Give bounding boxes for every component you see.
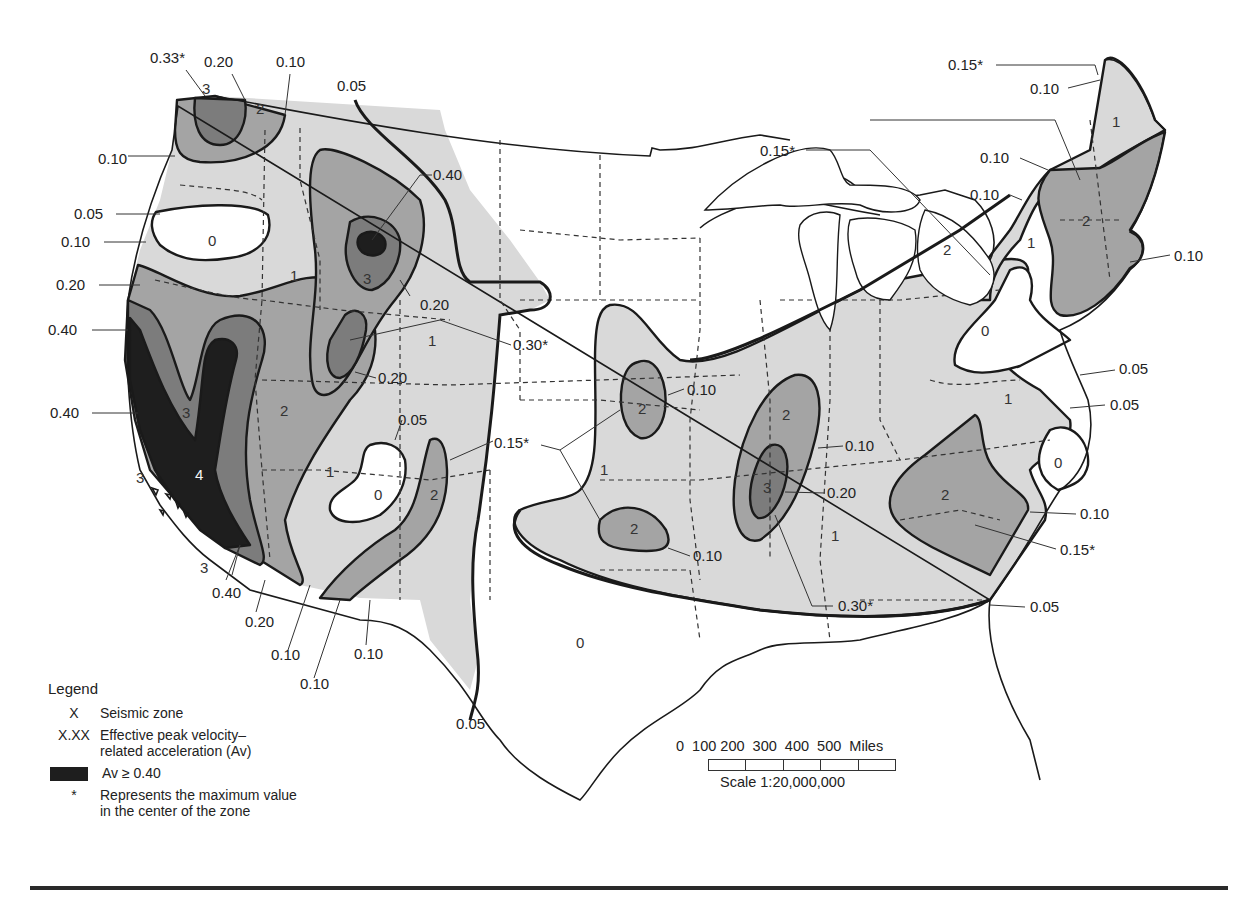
contour-label: 0.10 bbox=[687, 381, 716, 398]
dark-swatch-icon bbox=[50, 767, 88, 781]
contour-label: 0.10 bbox=[276, 53, 305, 70]
contour-label: 0.15* bbox=[1060, 541, 1095, 558]
contour-label: 0.15* bbox=[948, 56, 983, 73]
contour-label: 0.30* bbox=[838, 597, 873, 614]
zone-label: 1 bbox=[290, 267, 298, 284]
scale-ratio: Scale 1:20,000,000 bbox=[720, 774, 946, 790]
legend-label-line2: in the center of the zone bbox=[100, 803, 297, 819]
zone-label: 3 bbox=[363, 270, 371, 287]
legend-title: Legend bbox=[48, 680, 297, 697]
contour-label: 0.15* bbox=[494, 434, 529, 451]
zone-label: 3 bbox=[200, 559, 208, 576]
zone-label: 1 bbox=[1004, 390, 1012, 407]
legend-label: Effective peak velocity– related acceler… bbox=[100, 727, 251, 759]
zone0-virginia bbox=[1039, 427, 1088, 490]
contour-label: 0.20 bbox=[827, 484, 856, 501]
map-legend: Legend X Seismic zone X.XX Effective pea… bbox=[48, 680, 297, 825]
contour-label: 0.05 bbox=[1030, 598, 1059, 615]
zone-label: 2 bbox=[256, 100, 264, 117]
zone-label: 0 bbox=[208, 232, 216, 249]
zone-label: 1 bbox=[326, 463, 334, 480]
zone-label: 1 bbox=[831, 527, 839, 544]
zone-label: 1 bbox=[428, 332, 436, 349]
contour-label: 0.05 bbox=[74, 205, 103, 222]
contour-label: 0.20 bbox=[420, 296, 449, 313]
contour-label: 0.10 bbox=[271, 646, 300, 663]
contour-label: 0.05 bbox=[398, 411, 427, 428]
legend-label: Seismic zone bbox=[100, 705, 183, 721]
zone-label: 2 bbox=[941, 486, 949, 503]
scale-ticks: 0 100 200 300 400 500 Miles bbox=[676, 738, 946, 754]
contour-label: 0.10 bbox=[693, 547, 722, 564]
zone-label: 2 bbox=[638, 400, 646, 417]
legend-label: Represents the maximum value in the cent… bbox=[100, 787, 297, 819]
zone-label: 2 bbox=[782, 406, 790, 423]
zone-label: 2 bbox=[1082, 212, 1090, 229]
zone-label: 1 bbox=[600, 461, 608, 478]
zone4-yellowstone bbox=[358, 232, 386, 256]
legend-label: Av ≥ 0.40 bbox=[102, 765, 161, 781]
legend-item-asterisk: * Represents the maximum value in the ce… bbox=[48, 787, 297, 819]
contour-label: 0.05 bbox=[1110, 396, 1139, 413]
zone-label: 2 bbox=[430, 486, 438, 503]
contour-label: 0.10 bbox=[354, 645, 383, 662]
zone-label: 4 bbox=[195, 466, 203, 483]
contour-label: 0.40 bbox=[50, 404, 79, 421]
contour-label: 0.10 bbox=[300, 675, 329, 692]
contour-label: 0.40 bbox=[212, 584, 241, 601]
contour-label: 0.30* bbox=[513, 336, 548, 353]
legend-label-line2: related acceleration (Av) bbox=[100, 743, 251, 759]
contour-label: 0.05 bbox=[456, 715, 485, 732]
zone-label: 2 bbox=[943, 241, 951, 258]
legend-label-line1: Effective peak velocity– bbox=[100, 727, 251, 743]
contour-label: 0.10 bbox=[1080, 505, 1109, 522]
contour-label: 0.40 bbox=[48, 321, 77, 338]
asterisk-icon: * bbox=[48, 787, 100, 803]
zone-label: 3 bbox=[182, 404, 190, 421]
zone-label: 3 bbox=[202, 80, 210, 97]
scale-bar: 0 100 200 300 400 500 Miles Scale 1:20,0… bbox=[676, 738, 946, 790]
contour-label: 0.10 bbox=[970, 186, 999, 203]
contour-label: 0.10 bbox=[845, 437, 874, 454]
zone-label: 0 bbox=[576, 634, 584, 651]
zone-label: 1 bbox=[1112, 113, 1120, 130]
contour-label: 0.15* bbox=[760, 142, 795, 159]
legend-item-av-high: Av ≥ 0.40 bbox=[48, 765, 297, 781]
contour-label: 0.20 bbox=[56, 276, 85, 293]
contour-label: 0.05 bbox=[337, 77, 366, 94]
contour-label: 0.33* bbox=[150, 49, 185, 66]
bottom-rule-divider bbox=[30, 886, 1228, 890]
scale-bar-graphic bbox=[708, 759, 896, 771]
zone-label: 3 bbox=[763, 479, 771, 496]
contour-label: 0.20 bbox=[204, 53, 233, 70]
zone-label: 3 bbox=[136, 469, 144, 486]
legend-label-line1: Represents the maximum value bbox=[100, 787, 297, 803]
zone-label: 2 bbox=[280, 402, 288, 419]
legend-key: X bbox=[48, 705, 100, 721]
zone-label: 1 bbox=[1027, 234, 1035, 251]
contour-label: 0.10 bbox=[980, 149, 1009, 166]
contour-label: 0.10 bbox=[98, 150, 127, 167]
zone-label: 0 bbox=[374, 486, 382, 503]
contour-label: 0.10 bbox=[1030, 80, 1059, 97]
contour-label: 0.20 bbox=[245, 613, 274, 630]
contour-label: 0.40 bbox=[433, 166, 462, 183]
legend-key: X.XX bbox=[48, 727, 100, 743]
legend-item-av-value: X.XX Effective peak velocity– related ac… bbox=[48, 727, 297, 759]
legend-item-seismic-zone: X Seismic zone bbox=[48, 705, 297, 721]
contour-label: 0.20 bbox=[378, 369, 407, 386]
zone-label: 0 bbox=[1054, 454, 1062, 471]
contour-label: 0.05 bbox=[1119, 360, 1148, 377]
contour-label: 0.10 bbox=[1174, 247, 1203, 264]
zone-label: 2 bbox=[630, 520, 638, 537]
zone-label: 0 bbox=[981, 322, 989, 339]
contour-label: 0.10 bbox=[61, 233, 90, 250]
